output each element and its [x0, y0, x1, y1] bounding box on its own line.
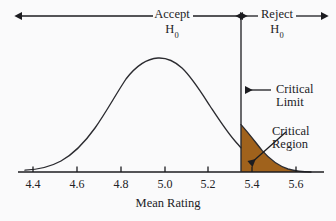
x-tick-label-3: 5.0 — [145, 178, 185, 190]
critical-limit-line1: Critical — [276, 82, 314, 96]
accept-hypothesis-label: H0 — [136, 23, 208, 38]
x-tick-label-1: 4.6 — [57, 178, 97, 190]
reject-region-label: Reject — [241, 8, 313, 21]
statistical-hypothesis-test-figure: Accept H0 Reject H0 Critical Limit Criti… — [0, 0, 336, 221]
reject-hypothesis-label: H0 — [241, 23, 313, 38]
x-tick-label-5: 5.4 — [232, 178, 272, 190]
x-tick-label-6: 5.6 — [276, 178, 316, 190]
accept-region-label: Accept — [136, 8, 208, 21]
x-tick-label-4: 5.2 — [188, 178, 228, 190]
critical-region-callout: Critical Region — [272, 125, 310, 151]
critical-region-line2: Region — [272, 138, 310, 151]
critical-region-line1: Critical — [272, 124, 310, 138]
x-tick-label-2: 4.8 — [101, 178, 141, 190]
x-axis-title: Mean Rating — [0, 197, 336, 210]
reject-hypothesis-subscript: 0 — [279, 30, 283, 40]
x-tick-label-0: 4.4 — [13, 178, 53, 190]
accept-hypothesis-subscript: 0 — [174, 30, 178, 40]
critical-limit-callout: Critical Limit — [276, 83, 314, 109]
critical-limit-line2: Limit — [276, 96, 314, 109]
normal-distribution-curve — [25, 58, 311, 172]
